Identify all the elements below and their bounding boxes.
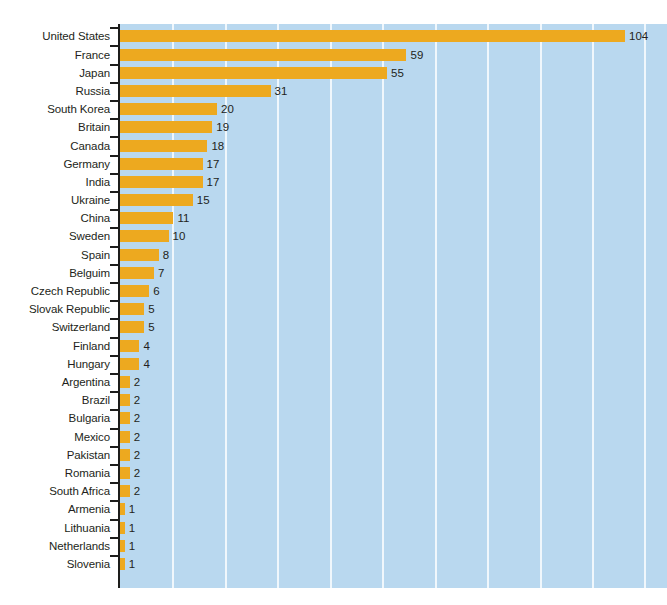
axis-tick [110,555,119,557]
bar-row: Brazil2 [0,391,667,409]
bar-row: France59 [0,45,667,63]
bar-row: Switzerland5 [0,318,667,336]
bar [120,249,159,261]
bar [120,158,203,170]
category-label: United States [42,30,110,42]
value-label: 4 [143,340,149,352]
bar [120,467,130,479]
value-label: 2 [134,431,140,443]
value-label: 2 [134,485,140,497]
bar [120,485,130,497]
bar [120,85,271,97]
axis-tick [110,300,119,302]
category-label: Belguim [69,267,110,279]
axis-tick [110,27,119,29]
bar-row: China11 [0,209,667,227]
axis-tick [110,482,119,484]
value-label: 2 [134,376,140,388]
category-label: Finland [73,340,110,352]
bar [120,230,169,242]
axis-tick [110,373,119,375]
bar-row: Romania2 [0,464,667,482]
bar-row: Finland4 [0,337,667,355]
value-label: 2 [134,449,140,461]
axis-tick [110,464,119,466]
category-label: India [86,176,110,188]
bar [120,67,387,79]
value-label: 59 [410,49,423,61]
value-label: 11 [177,212,189,224]
category-label: Ukraine [71,194,110,206]
bar-row: Spain8 [0,246,667,264]
bar-row: Lithuania1 [0,519,667,537]
value-label: 5 [148,321,154,333]
category-label: Mexico [74,431,110,443]
value-label: 55 [391,67,404,79]
category-label: Romania [65,467,110,479]
bar [120,431,130,443]
value-label: 20 [221,103,234,115]
axis-tick [110,82,119,84]
bar [120,394,130,406]
value-label: 4 [143,358,149,370]
category-label: Slovenia [67,558,110,570]
category-label: Spain [81,249,110,261]
bar [120,340,139,352]
category-label: Canada [70,140,110,152]
category-label: South Korea [47,103,110,115]
category-label: Armenia [68,503,110,515]
bar [120,176,203,188]
value-label: 1 [129,558,135,570]
axis-tick [110,136,119,138]
value-label: 31 [275,85,288,97]
axis-tick [110,519,119,521]
bar [120,412,130,424]
bar [120,103,217,115]
bar-row: Armenia1 [0,500,667,518]
bar-row: India17 [0,173,667,191]
category-label: Brazil [82,394,110,406]
category-label: Japan [79,67,110,79]
bar-row: Ukraine15 [0,191,667,209]
axis-tick [110,191,119,193]
category-label: China [80,212,110,224]
value-label: 2 [134,412,140,424]
bar-row: Belguim7 [0,264,667,282]
category-label: Czech Republic [31,285,110,297]
axis-tick [110,500,119,502]
value-label: 1 [129,522,135,534]
axis-tick [110,246,119,248]
axis-tick [110,45,119,47]
value-label: 8 [163,249,169,261]
category-label: Lithuania [64,522,110,534]
category-label: Sweden [69,230,110,242]
bar [120,267,154,279]
bar-row: South Korea20 [0,100,667,118]
bar-chart: United States104France59Japan55Russia31S… [0,0,667,605]
bar-row: Bulgaria2 [0,409,667,427]
category-label: Germany [63,158,110,170]
category-label: Bulgaria [69,412,110,424]
value-label: 7 [158,267,164,279]
axis-tick [110,173,119,175]
axis-tick [110,355,119,357]
bar-row: Germany17 [0,155,667,173]
bar [120,285,149,297]
chart-rows: United States104France59Japan55Russia31S… [0,24,667,588]
axis-tick [110,118,119,120]
value-label: 15 [197,194,210,206]
value-label: 5 [148,303,154,315]
axis-tick [110,209,119,211]
axis-tick [110,337,119,339]
category-label: Switzerland [52,321,110,333]
value-label: 1 [129,540,135,552]
bar-row: Czech Republic6 [0,282,667,300]
bar [120,303,144,315]
axis-tick [110,100,119,102]
bar [120,194,193,206]
axis-tick [110,446,119,448]
category-label: Russia [75,85,110,97]
value-label: 18 [211,140,224,152]
bar-row: Britain19 [0,118,667,136]
bar [120,558,125,570]
